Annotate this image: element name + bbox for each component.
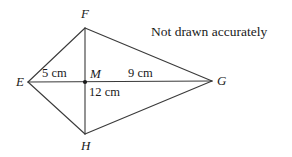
vertex-label-M: M xyxy=(90,67,101,80)
point-M-dot xyxy=(83,80,87,84)
vertex-label-F: F xyxy=(81,7,89,20)
vertex-label-E: E xyxy=(16,75,24,88)
vertex-label-G: G xyxy=(217,74,226,87)
edge-HE xyxy=(28,82,85,134)
measurement-label-MH: 12 cm xyxy=(89,86,120,99)
not-drawn-accurately-note: Not drawn accurately xyxy=(151,25,267,39)
vertex-label-H: H xyxy=(81,139,90,152)
diagonal-EG xyxy=(28,81,212,82)
measurement-label-EM: 5 cm xyxy=(42,67,67,80)
measurement-label-MG: 9 cm xyxy=(128,67,153,80)
geometry-figure: E F G H M 5 cm 9 cm 12 cm Not drawn accu… xyxy=(0,0,292,157)
